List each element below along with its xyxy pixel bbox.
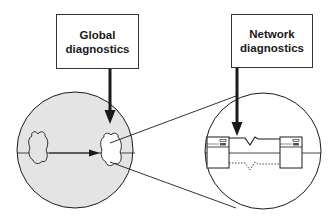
global-diagnostics-box: Global diagnostics bbox=[56, 14, 139, 69]
network-diagnostics-box: Network diagnostics bbox=[231, 14, 313, 68]
network-diagnostics-label-line2: diagnostics bbox=[240, 41, 304, 55]
right-server-icon bbox=[280, 137, 302, 168]
global-diagnostics-label-line2: diagnostics bbox=[66, 42, 130, 56]
global-diagnostics-label-line1: Global bbox=[66, 28, 130, 42]
highlight-glow bbox=[105, 141, 119, 159]
source-cloud-icon bbox=[29, 132, 48, 164]
left-server-icon bbox=[207, 137, 229, 168]
network-diagnostics-label-line1: Network bbox=[240, 27, 304, 41]
